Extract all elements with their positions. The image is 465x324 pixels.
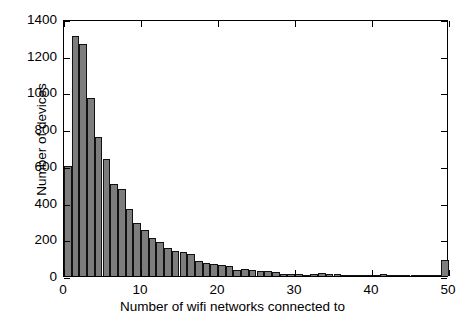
y-axis-tick [64, 168, 70, 169]
y-axis-tick-right [441, 278, 447, 279]
y-axis-tick-right [441, 131, 447, 132]
x-axis-tick-top [372, 21, 373, 27]
histogram-bar [257, 271, 265, 276]
histogram-bar [372, 275, 380, 276]
histogram-bar [411, 275, 419, 276]
histogram-bar [341, 275, 349, 276]
histogram-bar [418, 275, 426, 276]
x-axis-tick-top [295, 21, 296, 27]
histogram-bar [187, 254, 195, 276]
x-axis-tick [141, 270, 142, 276]
x-axis-tick-top [218, 21, 219, 27]
histogram-bar [79, 44, 87, 276]
histogram-bar [364, 275, 372, 276]
x-axis-tick [64, 270, 65, 276]
histogram-bar [395, 275, 403, 276]
x-tick-label: 20 [197, 283, 237, 297]
histogram-bar [172, 251, 180, 276]
x-axis-title: Number of wifi networks connected to [0, 299, 465, 314]
histogram-bar [303, 275, 311, 276]
histogram-bar [310, 274, 318, 276]
y-axis-title: Number of devices [34, 20, 49, 260]
histogram-bar [349, 275, 357, 276]
x-axis-tick-top [64, 21, 65, 27]
histogram-bar [87, 98, 95, 276]
histogram-bar [318, 273, 326, 276]
histogram-bar [149, 238, 157, 276]
y-axis-tick [64, 131, 70, 132]
x-axis-tick-top [449, 21, 450, 27]
histogram-bar [287, 274, 295, 276]
x-axis-tick [218, 270, 219, 276]
x-axis-tick-top [141, 21, 142, 27]
histogram-bar [226, 266, 234, 276]
y-axis-tick-right [441, 58, 447, 59]
histogram-bar [133, 223, 141, 276]
histogram-bar [95, 137, 103, 276]
y-tick-label: 0 [11, 270, 57, 284]
histogram-bar [64, 166, 72, 276]
histogram-bar [203, 263, 211, 276]
y-axis-tick [64, 241, 70, 242]
x-axis-tick [372, 270, 373, 276]
histogram-bar [272, 272, 280, 276]
histogram-bar [126, 209, 134, 276]
histogram-bar [357, 275, 365, 276]
y-axis-tick-right [441, 205, 447, 206]
histogram-bar [218, 265, 226, 276]
histogram-bar [403, 275, 411, 276]
histogram-bar [264, 271, 272, 276]
x-tick-label: 10 [120, 283, 160, 297]
y-axis-tick [64, 205, 70, 206]
histogram-bar [118, 189, 126, 276]
histogram-bar [195, 261, 203, 276]
histogram-bar [164, 248, 172, 276]
histogram-bar [441, 260, 449, 276]
bars-container [64, 21, 447, 276]
histogram-bar [295, 274, 303, 276]
histogram-bar [241, 269, 249, 276]
y-axis-tick-right [441, 94, 447, 95]
histogram-bar [103, 159, 111, 276]
histogram-bar [387, 275, 395, 276]
x-axis-tick [295, 270, 296, 276]
histogram-bar [110, 184, 118, 276]
histogram-bar [141, 230, 149, 276]
histogram-bar [180, 252, 188, 276]
histogram-bar [210, 264, 218, 276]
histogram-bar [326, 274, 334, 276]
x-tick-label: 50 [428, 283, 465, 297]
x-tick-label: 40 [351, 283, 391, 297]
histogram-bar [72, 36, 80, 276]
x-tick-label: 30 [274, 283, 314, 297]
x-tick-label: 0 [43, 283, 83, 297]
histogram-bar [233, 270, 241, 276]
histogram-bar [334, 274, 342, 276]
histogram-bar [426, 275, 434, 276]
histogram-bar [380, 274, 388, 276]
x-axis-tick [449, 270, 450, 276]
histogram-bar [249, 270, 257, 276]
y-axis-tick-right [441, 241, 447, 242]
y-axis-tick [64, 94, 70, 95]
y-axis-tick [64, 58, 70, 59]
plot-area [63, 20, 448, 277]
y-axis-tick-right [441, 21, 447, 22]
histogram-bar [434, 275, 442, 276]
histogram-bar [280, 274, 288, 276]
y-axis-tick [64, 278, 70, 279]
y-axis-tick-right [441, 168, 447, 169]
histogram-figure: 020040060080010001200140001020304050 Num… [0, 0, 465, 324]
histogram-bar [156, 242, 164, 276]
